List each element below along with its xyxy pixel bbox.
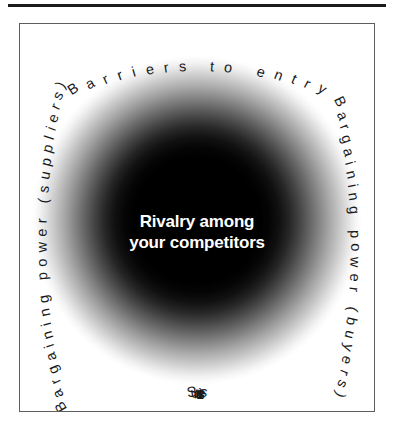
rivalry-radial-blob [32, 55, 362, 385]
force-label-barriers-to-entry: Barriers to entry [20, 58, 374, 88]
force-label-barriers-to-entry-text: Barriers to entry [145, 58, 250, 74]
five-forces-diagram: Rivalry among your competitors Barriers … [19, 23, 375, 412]
force-label-substitutes: Substitutes [20, 386, 374, 410]
force-label-substitutes-text: Substitutes [161, 386, 234, 402]
force-label-bargaining-power-buyers-text: Bargaining power (buyers) [348, 161, 364, 334]
top-divider-rule [8, 4, 386, 7]
force-label-bargaining-power-suppliers: Bargaining power (suppliers) [34, 53, 56, 413]
force-label-bargaining-power-buyers: Bargaining power (buyers) [342, 53, 364, 413]
force-label-bargaining-power-suppliers-text: Bargaining power (suppliers) [34, 153, 50, 341]
